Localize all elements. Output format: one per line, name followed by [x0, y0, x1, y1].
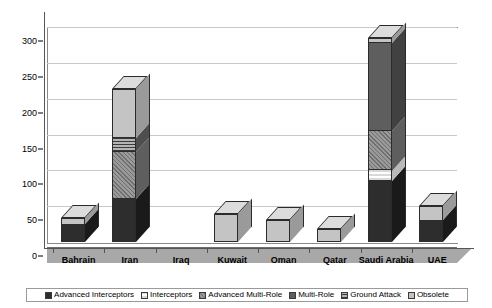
bar-bahrain[interactable] — [61, 218, 85, 242]
bar-segment-advanced-interceptors — [369, 180, 391, 241]
legend-swatch-icon — [141, 292, 148, 299]
plot-right-depth — [457, 12, 472, 227]
y-tick-label: 0 — [32, 251, 37, 261]
bar-iran[interactable] — [112, 89, 136, 242]
legend-label: Ground Attack — [350, 291, 401, 299]
plot-area — [47, 27, 472, 249]
y-tick-label: 50 — [27, 215, 37, 225]
bar-side-segment — [392, 28, 405, 131]
legend-swatch-icon — [199, 292, 206, 299]
x-tick-label-bahrain: Bahrain — [62, 255, 96, 265]
y-tick-mark — [38, 112, 43, 113]
x-tick-label-saudi-arabia: Saudi Arabia — [359, 255, 414, 265]
legend-item-advanced-multi-role[interactable]: Advanced Multi-Role — [199, 291, 282, 299]
y-tick-label: 300 — [22, 36, 37, 46]
bar-front-face — [61, 218, 85, 242]
y-tick-label: 250 — [22, 72, 37, 82]
bar-oman[interactable] — [266, 220, 290, 242]
y-tick-label: 150 — [22, 144, 37, 154]
bar-front-face — [368, 38, 392, 242]
legend-label: Advanced Interceptors — [54, 291, 134, 299]
legend-swatch-icon — [408, 292, 415, 299]
bar-qatar[interactable] — [317, 229, 341, 242]
y-axis-line — [44, 12, 45, 248]
legend-item-multi-role[interactable]: Multi-Role — [289, 291, 334, 299]
legend-swatch-icon — [341, 292, 348, 299]
legend-label: Advanced Multi-Role — [208, 291, 282, 299]
x-tick-label-oman: Oman — [271, 255, 297, 265]
x-tick-label-iraq: Iraq — [173, 255, 190, 265]
legend-item-obsolete[interactable]: Obsolete — [408, 291, 449, 299]
bar-segment-advanced-interceptors — [420, 220, 442, 242]
y-tick-mark — [38, 41, 43, 42]
legend-swatch-icon — [45, 292, 52, 299]
bar-side-face — [136, 74, 150, 242]
bar-segment-multi-role — [369, 42, 391, 130]
legend-label: Interceptors — [150, 291, 192, 299]
bar-saudi-arabia[interactable] — [368, 38, 392, 242]
y-tick-mark — [38, 76, 43, 77]
x-tick-label-kuwait: Kuwait — [218, 255, 248, 265]
x-axis-labels: BahrainIranIraqKuwaitOmanQatarSaudi Arab… — [47, 255, 472, 271]
chart-legend: Advanced InterceptorsInterceptorsAdvance… — [26, 288, 468, 302]
y-tick-mark — [38, 220, 43, 221]
x-tick-label-uae: UAE — [428, 255, 447, 265]
bars-container — [47, 27, 457, 242]
y-tick-mark — [38, 148, 43, 149]
bar-front-face — [317, 229, 341, 242]
bar-segment-advanced-interceptors — [113, 198, 135, 241]
y-tick-mark — [38, 184, 43, 185]
bar-segment-ground-attack — [113, 137, 135, 151]
x-tick-mark — [53, 249, 54, 253]
x-tick-mark — [361, 249, 362, 253]
y-tick-label: 100 — [22, 179, 37, 189]
bar-segment-obsolete — [318, 229, 340, 241]
bar-segment-advanced-multi-role — [369, 130, 391, 169]
legend-swatch-icon — [289, 292, 296, 299]
legend-item-advanced-interceptors[interactable]: Advanced Interceptors — [45, 291, 134, 299]
bar-uae[interactable] — [419, 206, 443, 242]
bar-front-face — [266, 220, 290, 242]
bar-segment-obsolete — [267, 220, 289, 241]
bar-front-face — [419, 206, 443, 242]
legend-item-interceptors[interactable]: Interceptors — [141, 291, 192, 299]
legend-label: Obsolete — [417, 291, 449, 299]
bar-front-face — [112, 89, 136, 242]
x-tick-mark — [104, 249, 105, 253]
bar-kuwait[interactable] — [214, 214, 238, 242]
bar-segment-obsolete — [215, 214, 237, 241]
bar-segment-obsolete — [369, 38, 391, 42]
x-tick-mark — [412, 249, 413, 253]
x-tick-mark — [309, 249, 310, 253]
x-tick-label-qatar: Qatar — [323, 255, 347, 265]
x-tick-mark — [258, 249, 259, 253]
y-tick-mark — [38, 256, 43, 257]
bar-segment-obsolete — [420, 206, 442, 219]
bar-segment-advanced-interceptors — [62, 224, 84, 241]
legend-item-ground-attack[interactable]: Ground Attack — [341, 291, 401, 299]
bar-segment-advanced-multi-role — [113, 151, 135, 198]
x-tick-label-iran: Iran — [122, 255, 139, 265]
y-tick-label: 200 — [22, 108, 37, 118]
legend-label: Multi-Role — [298, 291, 334, 299]
bar-side-face — [392, 22, 406, 242]
bar-segment-obsolete — [113, 89, 135, 137]
bar-segment-interceptors — [369, 169, 391, 180]
stacked-bar-chart: 300250200150100500 BahrainIranIraqKuwait… — [0, 0, 492, 308]
x-tick-mark — [207, 249, 208, 253]
bar-segment-obsolete — [62, 218, 84, 223]
x-axis-line — [44, 248, 474, 249]
x-tick-mark — [156, 249, 157, 253]
bar-front-face — [214, 214, 238, 242]
y-axis: 300250200150100500 — [0, 0, 45, 260]
